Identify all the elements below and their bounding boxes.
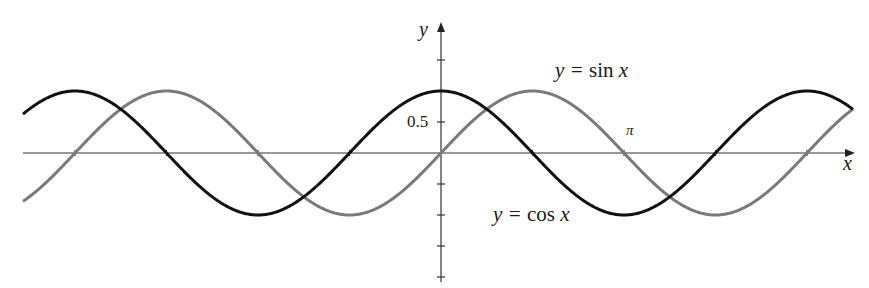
tick-label-pi: π: [626, 122, 634, 138]
y-axis-arrow-icon: [437, 22, 445, 32]
sine-cosine-graph: y x 0.5 π y = sin x y = cos x: [0, 0, 869, 288]
sin-label: y = sin x: [553, 58, 629, 82]
x-axis-label: x: [842, 152, 852, 174]
cos-label: y = cos x: [491, 202, 570, 226]
tick-label-0-5: 0.5: [407, 112, 428, 131]
y-axis-label: y: [417, 18, 428, 41]
